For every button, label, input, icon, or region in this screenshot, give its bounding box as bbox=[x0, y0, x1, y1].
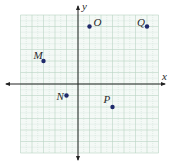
point-label: O bbox=[94, 16, 102, 28]
y-axis-label: y bbox=[81, 0, 87, 12]
point-label: Q bbox=[137, 16, 145, 28]
point-dot bbox=[110, 105, 114, 109]
point-label: N bbox=[56, 90, 65, 102]
point-dot bbox=[87, 24, 91, 28]
y-axis-arrow-up-icon bbox=[76, 5, 80, 10]
coordinate-plane: x y OQMNP bbox=[0, 0, 172, 164]
x-axis-arrow-left-icon bbox=[5, 82, 10, 86]
y-axis-arrow-down-icon bbox=[76, 156, 80, 161]
x-axis-label: x bbox=[161, 70, 167, 82]
point-dot bbox=[64, 93, 68, 97]
x-axis-arrow-right-icon bbox=[161, 82, 166, 86]
point-dot bbox=[145, 24, 149, 28]
point-label: P bbox=[103, 93, 111, 105]
point-label: M bbox=[33, 49, 44, 61]
